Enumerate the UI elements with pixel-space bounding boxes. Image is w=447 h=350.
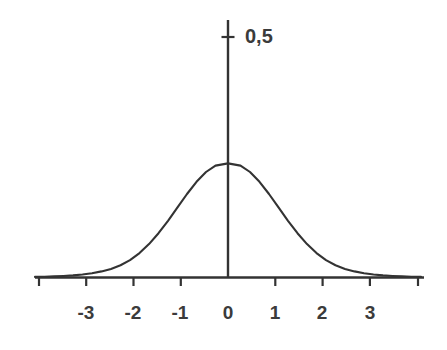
x-axis-tick-label-1: 1 [255,303,295,322]
x-axis-tick-label--1: -1 [160,303,200,322]
x-axis-tick-label-2: 2 [302,303,342,322]
x-axis-ticks [39,278,418,287]
x-axis-tick-label--2: -2 [113,303,153,322]
x-axis-tick-label--3: -3 [66,303,106,322]
plot-canvas [0,0,447,350]
x-axis-tick-label-3: 3 [350,303,390,322]
normal-distribution-figure: 0,5 -3 -2 -1 0 1 2 3 [0,0,447,350]
y-axis-tick-label-0-5: 0,5 [245,27,273,46]
x-axis-tick-label-0: 0 [208,303,248,322]
